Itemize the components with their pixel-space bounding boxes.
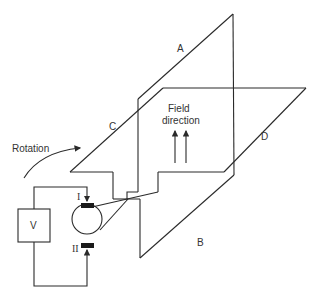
label-d: D (261, 131, 268, 142)
label-field-direction: direction (162, 115, 200, 126)
wire-to-brush-1 (92, 192, 158, 207)
brush-1 (81, 203, 94, 208)
lower-wire (34, 242, 87, 286)
armature-circle (72, 204, 102, 234)
label-voltmeter: V (30, 220, 37, 231)
label-b: B (197, 237, 204, 248)
side-c-edge (70, 88, 163, 172)
side-b-edge (140, 175, 234, 258)
label-c: C (109, 121, 116, 132)
wire-to-brush-2 (100, 199, 128, 230)
side-d-edge (224, 88, 306, 172)
label-a: A (177, 43, 184, 54)
brush-2 (81, 243, 94, 248)
label-field: Field (168, 103, 190, 114)
label-brush-2: II (72, 243, 79, 254)
field-arrows (175, 131, 186, 163)
label-brush-1: I (77, 191, 80, 202)
label-rotation: Rotation (12, 143, 49, 154)
vertical-right-edge (233, 14, 234, 175)
armature (72, 203, 102, 248)
side-a-edge (138, 14, 233, 99)
coil-diagram: A B C D Field direction Rotation V I II (0, 0, 322, 299)
